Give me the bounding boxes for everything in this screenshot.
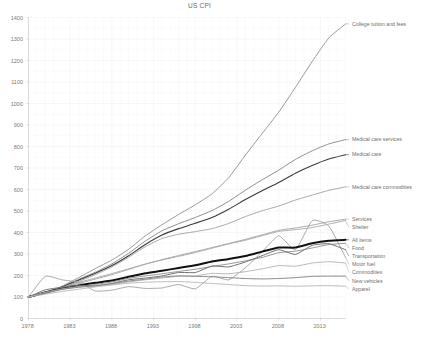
series-label: Medical care commodities — [352, 184, 412, 190]
series-labels: College tuition and feesMedical care ser… — [0, 0, 439, 347]
chart-figure: US CPI 010020030040050060070080090010001… — [0, 0, 439, 347]
series-label: Food — [352, 245, 364, 251]
series-label: All items — [352, 237, 372, 243]
series-label: Medical care services — [352, 136, 402, 142]
series-label: Transportation — [352, 253, 385, 259]
series-label: New vehicles — [352, 278, 383, 284]
series-label: Apparel — [352, 286, 370, 292]
series-label: Commodities — [352, 269, 382, 275]
series-label: Shelter — [352, 224, 368, 230]
series-label: College tuition and fees — [352, 21, 406, 27]
series-label: Motor fuel — [352, 261, 375, 267]
series-label: Medical care — [352, 151, 381, 157]
series-label: Services — [352, 216, 372, 222]
